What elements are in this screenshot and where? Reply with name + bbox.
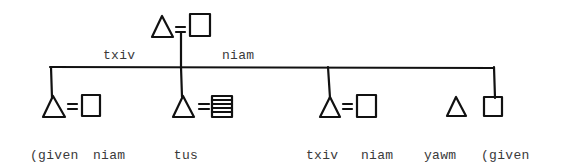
child-5-label: (given name) <box>481 121 530 162</box>
child-2-drop <box>181 67 182 97</box>
child-1-label: (given name) <box>28 121 79 162</box>
child-1-triangle-icon <box>43 96 65 117</box>
child-1-spouse-square-icon <box>82 95 100 116</box>
child-2-label: tus txiv <box>166 121 206 162</box>
child-3-label: txiv laus <box>306 121 338 162</box>
child-4-label: yawm vauv <box>424 121 456 162</box>
father-label: txiv <box>103 21 135 91</box>
child-3-spouse-label: niam laus <box>361 121 393 162</box>
kinship-diagram: txiv niam (given name) niam ntxawm tus t… <box>0 0 561 162</box>
father-triangle-icon <box>152 16 173 37</box>
mother-square-icon <box>190 14 210 36</box>
child-3-drop <box>328 67 330 98</box>
child-3-spouse-square-icon <box>357 95 376 117</box>
child-5-drop <box>494 67 495 98</box>
child-2-triangle-icon <box>173 96 194 117</box>
child-3-triangle-icon <box>320 97 340 117</box>
diagram-shapes <box>0 0 561 162</box>
mother-label: niam <box>222 21 254 91</box>
child-1-spouse-label: niam ntxawm <box>93 121 142 162</box>
child-1-drop <box>51 67 52 98</box>
child-4-triangle-icon <box>447 97 466 116</box>
child-5-square-icon <box>484 97 502 116</box>
